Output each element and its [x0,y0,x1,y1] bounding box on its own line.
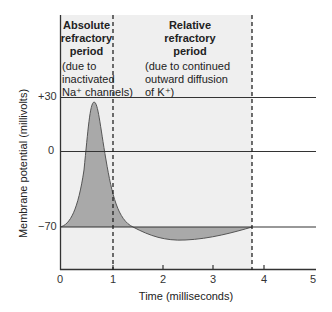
xtick-5: 5 [310,273,316,285]
xtick-1: 1 [110,273,116,285]
y-axis-title: Membrane potential (millivolts) [17,74,30,254]
ytick-minus70: −70 [38,220,57,232]
relative-note: (due to continued outward diffusion of K… [145,60,255,99]
xtick-2: 2 [160,273,166,285]
absolute-title: Absolute refractory period [60,19,113,58]
ytick-zero: 0 [48,144,54,156]
xtick-4: 4 [261,273,267,285]
x-axis-title: Time (milliseconds) [126,290,246,303]
xtick-3: 3 [210,273,216,285]
absolute-note: (due to inactivated Na⁺ channels) [62,60,142,99]
relative-title: Relative refractory period [140,19,240,58]
xtick-0: 0 [57,273,63,285]
ytick-plus30: +30 [38,90,57,102]
